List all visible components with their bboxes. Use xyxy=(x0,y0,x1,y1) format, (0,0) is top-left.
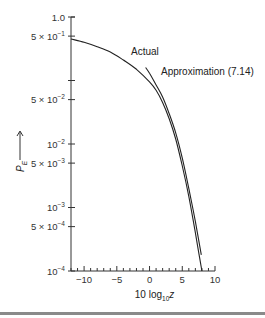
bottom-divider xyxy=(0,312,265,315)
y-tick-label: 5 × 10−1 xyxy=(31,30,65,42)
y-axis: 1.05 × 10−15 × 10−210−25 × 10−310−35 × 1… xyxy=(15,12,75,277)
annotation-actual: Actual xyxy=(131,46,159,57)
x-axis-label: 10 log10z xyxy=(135,289,174,302)
annotation-approximation: Approximation (7.14) xyxy=(161,66,254,77)
chart: 1.05 × 10−15 × 10−210−25 × 10−310−35 × 1… xyxy=(0,0,265,318)
x-axis: −10−5051010 log10z xyxy=(71,266,220,302)
y-tick-label: 10−3 xyxy=(47,201,65,213)
x-tick-label: 0 xyxy=(147,274,152,285)
x-tick-label: 10 xyxy=(210,274,221,285)
x-tick-label: −10 xyxy=(76,274,92,285)
y-tick-label: 5 × 10−4 xyxy=(31,220,65,232)
x-tick-label: −5 xyxy=(111,274,122,285)
y-tick-label: 10−2 xyxy=(47,138,65,150)
y-axis-label: PE xyxy=(15,160,28,172)
x-tick-label: 5 xyxy=(180,274,185,285)
y-tick-label: 5 × 10−2 xyxy=(31,93,65,105)
y-tick-label: 5 × 10−3 xyxy=(31,157,65,169)
series-approximation xyxy=(146,68,202,255)
y-tick-label: 1.0 xyxy=(52,12,65,23)
y-tick-label: 10−4 xyxy=(47,265,65,277)
